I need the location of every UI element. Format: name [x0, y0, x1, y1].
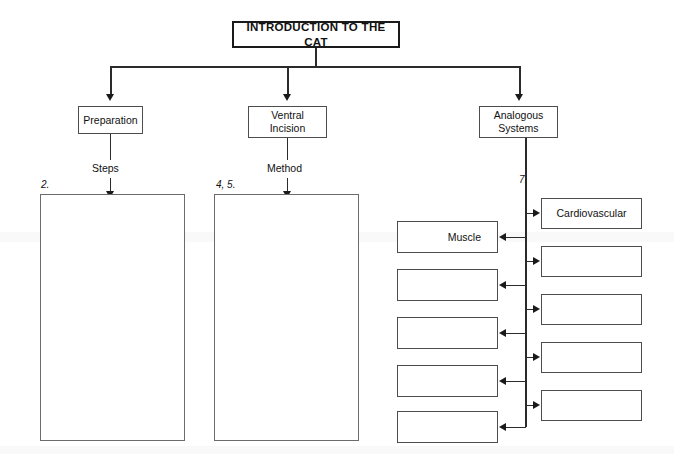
root-stem-connector	[315, 48, 317, 67]
system-box-left-3[interactable]	[397, 317, 498, 349]
arrow-down-ventral	[283, 94, 291, 101]
arrow-right-system-5	[533, 401, 540, 409]
system-box-right-4[interactable]	[541, 342, 642, 373]
arrow-right-system-3	[533, 305, 540, 313]
spine-to-left-box-2	[506, 285, 526, 286]
branch-drop-ventral	[287, 66, 289, 95]
spine-to-left-box-3	[506, 333, 526, 334]
arrow-left-system-1	[499, 233, 506, 241]
arrow-left-system-2	[499, 281, 506, 289]
spine-to-left-box-4	[506, 381, 526, 382]
connector-label-steps: Steps	[92, 162, 119, 174]
branch-box-analogous-systems: Analogous Systems	[479, 106, 558, 138]
numeral-label-4-5: 4, 5.	[216, 179, 235, 190]
system-box-left-4[interactable]	[397, 365, 498, 397]
answer-box-preparation-steps[interactable]	[40, 194, 185, 441]
connector-preparation-to-steps	[110, 134, 111, 160]
arrow-left-system-3	[499, 329, 506, 337]
root-title-box: INTRODUCTION TO THE CAT	[232, 21, 400, 48]
numeral-label-2: 2.	[41, 179, 49, 190]
concept-map-canvas: INTRODUCTION TO THE CAT Preparation Step…	[0, 0, 674, 469]
arrow-right-system-4	[533, 353, 540, 361]
system-box-right-1[interactable]: Cardiovascular	[541, 198, 642, 229]
branch-drop-analogous	[519, 66, 521, 95]
connector-label-method: Method	[267, 162, 302, 174]
branch-box-analogous-line2: Systems	[498, 122, 538, 135]
branch-box-ventral-line2: Incision	[270, 122, 306, 135]
branch-drop-preparation	[110, 66, 112, 95]
branch-box-ventral-line1: Ventral	[271, 109, 304, 122]
system-box-right-2[interactable]	[541, 246, 642, 277]
arrow-down-analogous	[515, 94, 523, 101]
scan-artifact-band	[0, 446, 674, 454]
spine-to-left-box-5	[506, 427, 526, 428]
system-box-left-2[interactable]	[397, 269, 498, 301]
branch-box-preparation: Preparation	[78, 106, 143, 134]
system-box-right-5[interactable]	[541, 390, 642, 421]
branch-box-analogous-line1: Analogous	[494, 109, 544, 122]
system-box-left-5[interactable]	[397, 411, 498, 443]
arrow-left-system-5	[499, 423, 506, 431]
arrow-right-system-2	[533, 257, 540, 265]
arrow-right-system-1	[533, 209, 540, 217]
connector-ventral-to-method	[287, 138, 288, 160]
arrow-down-preparation	[106, 94, 114, 101]
branch-box-ventral-incision: Ventral Incision	[248, 106, 327, 138]
distribution-bar	[110, 66, 519, 68]
spine-to-left-box-1	[506, 237, 526, 238]
system-box-left-1[interactable]: Muscle	[397, 221, 498, 253]
arrow-left-system-4	[499, 377, 506, 385]
analogous-systems-spine	[525, 138, 527, 427]
system-box-right-3[interactable]	[541, 294, 642, 325]
answer-box-ventral-method[interactable]	[214, 194, 359, 441]
